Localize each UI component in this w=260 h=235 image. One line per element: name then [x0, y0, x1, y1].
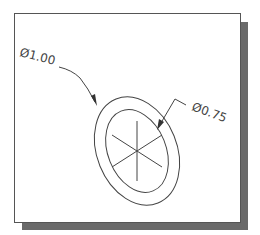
arrowhead-icon: [91, 94, 97, 106]
dimension-label-inner: Ø0.75: [190, 100, 229, 126]
dimension-label-outer: Ø1.00: [18, 45, 56, 67]
leader-outer-diameter: [59, 67, 97, 106]
drawing-canvas: Ø1.00 Ø0.75: [0, 0, 260, 235]
arrowhead-icon: [157, 119, 164, 130]
center-mark: [112, 121, 162, 181]
